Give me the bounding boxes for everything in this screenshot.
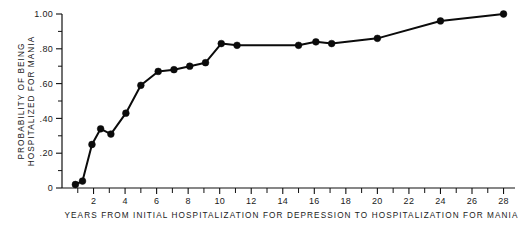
- y-axis-tick-label: .60: [40, 79, 53, 89]
- x-axis-tick-label: 24: [435, 196, 446, 206]
- x-axis-title: YEARS FROM INITIAL HOSPITALIZATION FOR D…: [65, 211, 519, 220]
- x-axis-tick-label: 14: [277, 196, 288, 206]
- data-point-marker: [137, 82, 144, 89]
- x-axis-tick-label: 6: [154, 196, 159, 206]
- x-axis-tick-label: 28: [498, 196, 509, 206]
- x-axis-tick-label: 8: [185, 196, 190, 206]
- x-axis-tick-label: 4: [122, 196, 127, 206]
- y-axis-tick-label: .80: [40, 44, 53, 54]
- data-point-marker: [328, 40, 335, 47]
- series-line: [75, 14, 503, 185]
- data-point-marker: [500, 11, 507, 18]
- data-point-marker: [295, 42, 302, 49]
- axis-titles: YEARS FROM INITIAL HOSPITALIZATION FOR D…: [17, 36, 518, 220]
- x-axis-tick-label: 18: [341, 196, 352, 206]
- y-axis-title-line2: HOSPITALIZED FOR MANIA: [27, 36, 36, 167]
- data-point-marker: [155, 68, 162, 75]
- y-axis-title-line1: PROBABILITY OF BEING: [17, 43, 26, 160]
- x-axis-tick-label: 2: [91, 196, 96, 206]
- data-point-marker: [218, 40, 225, 47]
- data-point-marker: [97, 125, 104, 132]
- x-axis-tick-label: 22: [404, 196, 415, 206]
- x-axis-tick-label: 16: [309, 196, 320, 206]
- data-point-marker: [437, 18, 444, 25]
- x-axis-tick-label: 12: [246, 196, 257, 206]
- y-axis-tick-label: 0: [48, 183, 53, 193]
- y-axis-tick-label: .40: [40, 114, 53, 124]
- data-point-marker: [89, 141, 96, 148]
- data-point-marker: [171, 66, 178, 73]
- chart-figure: 1.00.80.60.40.200 2468101214161820222426…: [0, 0, 526, 226]
- x-axis-tick-label: 10: [214, 196, 225, 206]
- data-point-marker: [312, 38, 319, 45]
- y-axis-tick-label: .20: [40, 148, 53, 158]
- data-point-marker: [122, 110, 129, 117]
- data-point-marker: [234, 42, 241, 49]
- data-point-marker: [107, 131, 114, 138]
- y-axis: 1.00.80.60.40.200: [34, 9, 62, 193]
- data-point-marker: [79, 178, 86, 185]
- x-axis: 246810121416182022242628: [62, 188, 515, 206]
- data-point-marker: [72, 181, 79, 188]
- data-point-marker: [186, 63, 193, 70]
- data-point-marker: [202, 59, 209, 66]
- data-point-marker: [374, 35, 381, 42]
- y-axis-tick-label: 1.00: [34, 9, 53, 19]
- survival-curve-chart: 1.00.80.60.40.200 2468101214161820222426…: [0, 0, 526, 226]
- x-axis-tick-label: 20: [372, 196, 383, 206]
- data-series: [72, 11, 507, 188]
- x-axis-tick-label: 26: [467, 196, 478, 206]
